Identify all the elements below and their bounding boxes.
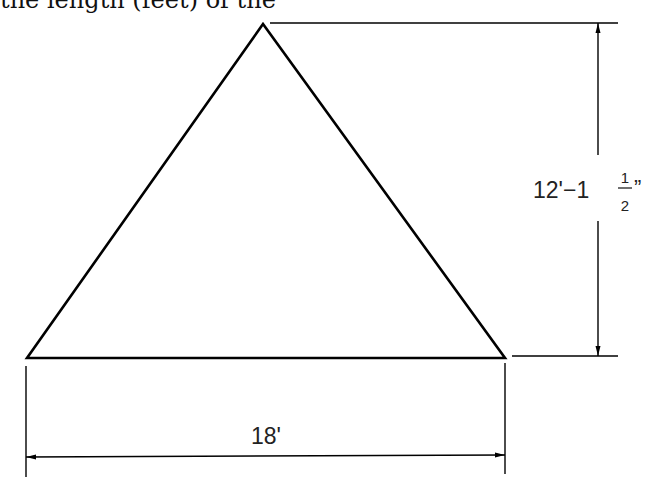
- svg-text:”: ”: [634, 175, 641, 200]
- triangle-dimension-drawing: 12'−1 1 2 ” 18': [0, 0, 661, 492]
- base-label: 18': [251, 423, 281, 449]
- height-label: 12'−1 1 2 ”: [533, 169, 641, 214]
- triangle: [27, 24, 505, 358]
- svg-text:12'−1: 12'−1: [533, 177, 589, 203]
- svg-text:2: 2: [621, 197, 629, 214]
- base-dimension-line: [26, 455, 505, 457]
- svg-text:1: 1: [621, 169, 629, 186]
